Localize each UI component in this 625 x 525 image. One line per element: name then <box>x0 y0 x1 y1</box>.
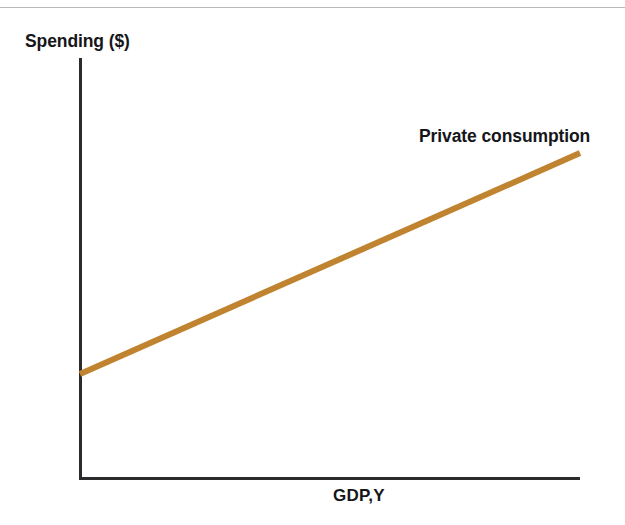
series-label-private-consumption: Private consumption <box>419 126 590 147</box>
private-consumption-line <box>80 153 580 374</box>
chart-figure: Spending ($) GDP,Y Private consumption <box>0 0 625 525</box>
plot-area <box>0 0 625 525</box>
